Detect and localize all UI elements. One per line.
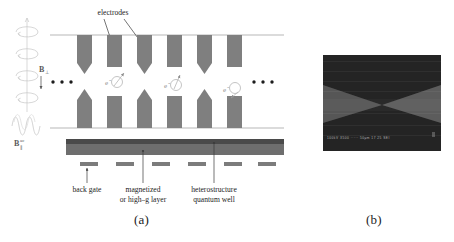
electron-3-label: e [223,86,226,94]
back-gate-3[interactable] [152,162,170,166]
magnetized-layer-annotation: magnetized or high–g layer [120,150,167,204]
figure-root: B ⊥ B ∥ ac electrodes [0,0,454,242]
heterostructure-label-line2: quantum well [193,195,235,204]
field-static-subscript: ⊥ [45,70,49,75]
magnetic-field-group: B ⊥ B ∥ ac [12,18,49,151]
electrode-top-4-flat[interactable] [167,35,182,67]
electrode-bottom-2-flat[interactable] [107,96,122,128]
panel-b-caption: (b) [366,212,382,228]
electrode-row-bottom [77,89,242,128]
back-gate-label: back gate [73,185,103,194]
back-gate-1[interactable] [80,162,98,166]
electron-2-spin-arrow [174,75,180,89]
quantum-well-slab [66,139,284,155]
field-ac-subscript: ∥ [20,145,23,151]
chain-ellipsis-left [51,80,72,83]
electrode-top-1-pointed[interactable] [77,35,92,74]
back-gate-annotation: back gate [73,168,103,194]
panel-a-caption: (a) [134,212,149,228]
back-gate-5[interactable] [224,162,242,166]
heterostructure-label-line1: heterostructure [191,185,237,194]
schematic-svg: B ⊥ B ∥ ac electrodes [0,0,290,242]
field-ac-superscript: ac [20,138,25,143]
sem-status-bar: 100kV X500 ····· 50μm 17 25 SEI [323,136,441,145]
back-gate-4[interactable] [188,162,206,166]
field-ac-wave [12,117,40,135]
electrode-bottom-3-pointed[interactable] [137,89,152,128]
electrode-top-3-pointed[interactable] [137,35,152,74]
back-gate-2[interactable] [116,162,134,166]
panel-b-sem: 100kV X500 ····· 50μm 17 25 SEI (b) [290,0,454,242]
electron-3: e - [223,83,241,99]
electrode-top-5-pointed[interactable] [197,35,212,74]
panel-a-schematic: B ⊥ B ∥ ac electrodes [0,0,290,242]
electrodes-label: electrodes [98,8,129,17]
electrode-bottom-1-pointed[interactable] [77,89,92,128]
electron-3-spin-circle [230,83,241,94]
electrode-row-top [77,35,242,74]
sem-pinch-highlight [323,99,441,111]
electrode-top-2-flat[interactable] [107,35,122,67]
magnetized-layer-label-line1: magnetized [126,185,161,194]
quantum-well-top-edge [66,139,284,144]
electrode-bottom-4-flat[interactable] [167,96,182,128]
electrode-top-6-flat[interactable] [227,35,242,67]
back-gate-row [80,162,276,166]
electron-1-label: e [105,79,108,87]
electrode-bottom-5-pointed[interactable] [197,89,212,128]
heterostructure-dot [213,142,215,144]
sem-status-bar-text: 100kV X500 ····· 50μm 17 25 SEI [327,136,390,140]
electron-2-label: e [164,82,167,90]
chain-ellipsis-right [252,80,273,83]
electron-1: e - [105,73,124,88]
quantum-well-body[interactable] [66,144,284,155]
magnetized-layer-dot [142,150,144,152]
electrode-bottom-6-flat[interactable] [227,96,242,128]
electron-2: e - [164,75,182,91]
back-gate-6[interactable] [258,162,276,166]
sem-micrograph[interactable]: 100kV X500 ····· 50μm 17 25 SEI [323,55,441,151]
magnetized-layer-label-line2: or high–g layer [120,195,167,204]
